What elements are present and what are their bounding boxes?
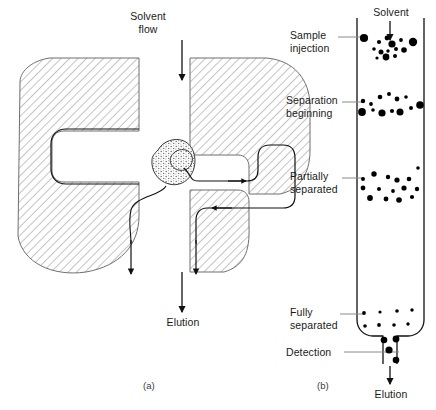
analyte-dot xyxy=(378,109,385,116)
solvent-flow-label: Solvent flow xyxy=(108,10,188,35)
analyte-dot xyxy=(361,186,366,191)
analyte-dot xyxy=(371,108,375,112)
analyte-dot xyxy=(416,101,424,109)
panel-b-tag: (b) xyxy=(317,380,329,391)
panel-a-tag: (a) xyxy=(143,380,155,391)
analyte-dot xyxy=(415,187,419,191)
analyte-dot xyxy=(406,322,409,325)
analyte-dot xyxy=(410,195,414,199)
analyte-dot xyxy=(388,40,395,47)
panel-b-graphics xyxy=(338,18,424,384)
analyte-dot xyxy=(387,92,391,96)
detection-label: Detection xyxy=(286,346,346,359)
analyte-dot xyxy=(367,195,373,201)
analyte-dot xyxy=(362,311,366,315)
analyte-dot xyxy=(379,50,384,55)
analyte-dot xyxy=(391,189,395,193)
stationary-phase-particle-right-lower xyxy=(190,190,249,272)
dot-group-separation-beginning xyxy=(358,92,424,117)
analyte-dot xyxy=(378,310,381,313)
analyte-dot xyxy=(371,171,376,176)
analyte-dot xyxy=(360,34,368,42)
analyte-dot xyxy=(404,95,408,99)
analyte-dot xyxy=(386,175,390,179)
analyte-dot xyxy=(377,323,381,327)
analyte-dot xyxy=(361,177,365,181)
analyte-dot xyxy=(358,108,366,116)
elution-label-a: Elution xyxy=(148,316,218,329)
sample-injection-label: Sample injection xyxy=(290,29,344,54)
analyte-dot xyxy=(399,38,403,42)
analyte-dot xyxy=(393,357,400,364)
analyte-dot xyxy=(396,197,402,203)
analyte-dot xyxy=(369,102,373,106)
pore-channel-left xyxy=(51,129,139,184)
analyte-dot xyxy=(395,309,399,313)
chromatography-column xyxy=(357,18,424,364)
separation-beginning-label: Separation beginning xyxy=(286,94,348,119)
analyte-molecule-small xyxy=(170,150,192,171)
analyte-dot xyxy=(383,54,390,61)
chromatography-figure: Solvent flow Elution (a) Solvent Sample … xyxy=(0,0,436,410)
analyte-dot xyxy=(410,308,413,311)
analyte-dot xyxy=(372,47,376,51)
solvent-label-b: Solvent xyxy=(360,6,422,19)
analyte-dot xyxy=(385,36,390,41)
analyte-dot xyxy=(395,97,400,102)
analyte-dot xyxy=(384,197,389,202)
stationary-phase-particle-left xyxy=(18,58,139,273)
analyte-dot xyxy=(416,166,420,170)
dot-group-sample-injection xyxy=(360,34,417,60)
analyte-dot xyxy=(378,95,383,100)
analyte-dot xyxy=(394,47,398,51)
partially-separated-label: Partially separated xyxy=(290,170,348,195)
fully-separated-label: Fully separated xyxy=(290,306,348,331)
analyte-dot xyxy=(377,40,381,44)
analyte-dot xyxy=(363,324,367,328)
analyte-dot xyxy=(393,336,400,343)
analyte-dot xyxy=(407,177,412,182)
analyte-dot xyxy=(409,106,413,110)
analyte-dot xyxy=(401,47,407,53)
analyte-dot xyxy=(393,54,397,58)
figure-canvas xyxy=(0,0,436,410)
analyte-dot xyxy=(375,56,378,59)
analyte-dot xyxy=(390,109,394,113)
elution-label-b: Elution xyxy=(363,388,419,401)
analyte-dot xyxy=(381,337,388,344)
analyte-dot xyxy=(397,109,404,116)
dot-group-partially-separated xyxy=(361,166,420,203)
analyte-dot xyxy=(394,177,399,182)
dot-group-fully-separated xyxy=(362,308,414,328)
analyte-dot xyxy=(392,323,396,327)
analyte-dot xyxy=(361,99,365,103)
analyte-dot xyxy=(377,187,381,191)
panel-a-graphics xyxy=(18,40,310,312)
analyte-dot xyxy=(385,346,392,353)
analyte-dots-layer xyxy=(358,34,424,363)
analyte-dot xyxy=(409,38,417,46)
analyte-dot xyxy=(401,185,406,190)
analyte-dot xyxy=(386,49,389,52)
